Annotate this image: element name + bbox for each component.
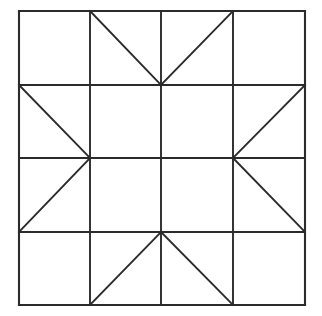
quilt-pattern-canvas [0,0,322,316]
quilt-pattern-svg [0,0,322,316]
